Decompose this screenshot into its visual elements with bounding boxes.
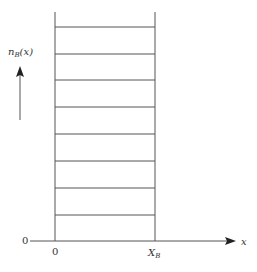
x-axis-label: x bbox=[241, 236, 247, 247]
origin-left-label: 0 bbox=[22, 235, 28, 246]
quantum-well-diagram: nB(x) 0 0 XB x bbox=[0, 0, 257, 272]
xb-label: XB bbox=[147, 247, 160, 260]
level-lines bbox=[55, 27, 155, 215]
y-quantity-label: nB(x) bbox=[8, 46, 33, 59]
origin-bottom-label: 0 bbox=[52, 246, 58, 257]
